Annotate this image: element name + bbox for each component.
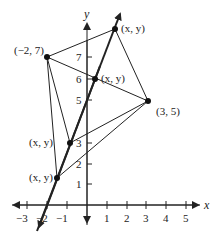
x-tick-label: 2 xyxy=(124,212,130,224)
point-low xyxy=(67,140,73,146)
x-axis-label: x xyxy=(203,198,210,212)
y-axis-label: y xyxy=(83,7,90,21)
point-neg2-7 xyxy=(44,54,50,60)
x-tick-label: 1 xyxy=(104,212,110,224)
x-tick-label: −3 xyxy=(16,212,28,224)
point-label: (3, 5) xyxy=(156,105,180,118)
coordinate-diagram: −3 −2 −1 1 2 3 4 5 1 2 3 5 6 7 x y (−2, … xyxy=(0,0,215,237)
point-label: (x, y) xyxy=(29,136,53,149)
x-tick-label: 3 xyxy=(143,212,149,224)
point-top xyxy=(112,26,118,32)
point-label: (x, y) xyxy=(121,22,145,35)
point-mid xyxy=(92,76,98,82)
point-3-5 xyxy=(145,98,151,104)
x-tick-label: 5 xyxy=(183,212,189,224)
y-tick-label: 7 xyxy=(76,51,82,63)
x-tick-label: −1 xyxy=(56,212,68,224)
triangle-lines xyxy=(47,29,148,178)
point-label: (−2, 7) xyxy=(14,44,44,57)
y-tick-label: 1 xyxy=(76,178,82,190)
point-label: (x, y) xyxy=(29,171,53,184)
y-tick-label: 6 xyxy=(76,73,82,85)
point-label: (x, y) xyxy=(101,72,125,85)
point-bottom xyxy=(54,175,60,181)
y-tick-label: 5 xyxy=(76,94,82,106)
x-tick-label: 4 xyxy=(163,212,169,224)
